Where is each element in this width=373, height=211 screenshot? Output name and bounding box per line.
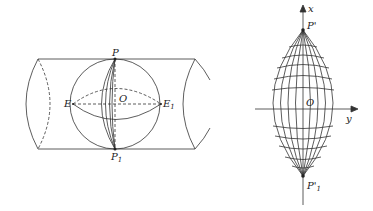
label-E1: E1 bbox=[162, 98, 175, 111]
point-E1 bbox=[160, 103, 162, 105]
cylinder-right-edge-bottom bbox=[195, 128, 210, 149]
point-P-prime bbox=[301, 28, 305, 32]
label-x-axis: x bbox=[308, 3, 314, 14]
cylinder-right-edge-top bbox=[195, 59, 210, 80]
label-P: P bbox=[111, 47, 119, 58]
label-P-prime: P' bbox=[306, 20, 316, 31]
y-axis-arrow bbox=[351, 106, 358, 112]
label-y-axis: y bbox=[345, 113, 352, 124]
cylinder-left-front-arc bbox=[26, 59, 38, 149]
x-axis-arrow bbox=[300, 5, 306, 12]
label-P1: P1 bbox=[110, 151, 122, 164]
meridian-l3 bbox=[296, 30, 304, 176]
equator-back bbox=[73, 89, 161, 105]
label-O-right: O bbox=[306, 97, 314, 108]
label-O-left: O bbox=[119, 93, 127, 104]
cylinder-left-back-arc bbox=[38, 59, 50, 149]
label-P1-prime: P'1 bbox=[306, 180, 321, 193]
cylinder-right-arc bbox=[183, 59, 195, 149]
label-E: E bbox=[63, 98, 72, 109]
meridian-l1 bbox=[281, 30, 304, 176]
point-E bbox=[72, 103, 74, 105]
point-P1-prime bbox=[301, 174, 305, 178]
diagram-canvas: P P1 E E1 O x y P' P'1 O bbox=[0, 0, 373, 211]
cylinder-projection-figure bbox=[26, 59, 210, 149]
equator-front bbox=[73, 104, 161, 120]
